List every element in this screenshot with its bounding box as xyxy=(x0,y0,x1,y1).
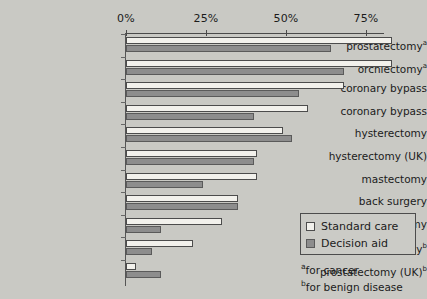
bar-decision-aid-3 xyxy=(126,113,254,120)
bar-standard-care-0 xyxy=(126,37,392,44)
bar-standard-care-5 xyxy=(126,150,257,157)
x-tick-label-50: 50% xyxy=(273,12,298,25)
bar-standard-care-6 xyxy=(126,173,257,180)
legend-swatch-standard-icon xyxy=(306,222,315,231)
bar-standard-care-2 xyxy=(126,82,344,89)
chart-footnotes: afor cancerbfor benign disease xyxy=(301,260,403,293)
bar-decision-aid-9 xyxy=(126,248,152,255)
x-tick-label-75: 75% xyxy=(353,12,378,25)
bar-standard-care-1 xyxy=(126,60,392,67)
bar-decision-aid-7 xyxy=(126,203,238,210)
bar-chart: 0%25%50%75% prostatectomyaorchiectomyaco… xyxy=(0,0,427,299)
x-axis-line xyxy=(125,33,384,34)
y-tick-0 xyxy=(121,34,126,35)
bar-standard-care-9 xyxy=(126,240,193,247)
legend-item-aid[interactable]: Decision aid xyxy=(306,235,410,252)
bar-standard-care-4 xyxy=(126,127,283,134)
bar-standard-care-8 xyxy=(126,218,222,225)
footnote-text-a: for cancer xyxy=(306,264,359,276)
bar-decision-aid-10 xyxy=(126,271,161,278)
footnote-b: bfor benign disease xyxy=(301,277,403,294)
bar-standard-care-3 xyxy=(126,105,308,112)
chart-legend: Standard careDecision aid xyxy=(300,213,416,255)
bar-standard-care-7 xyxy=(126,195,238,202)
footnote-a: afor cancer xyxy=(301,260,403,277)
bar-standard-care-10 xyxy=(126,263,136,270)
bar-decision-aid-4 xyxy=(126,135,292,142)
legend-swatch-aid-icon xyxy=(306,239,315,248)
footnote-text-b: for benign disease xyxy=(306,280,403,292)
bar-decision-aid-1 xyxy=(126,68,344,75)
legend-label-standard: Standard care xyxy=(321,220,398,233)
x-tick-label-0: 0% xyxy=(117,12,135,25)
x-tick-label-25: 25% xyxy=(193,12,218,25)
legend-label-aid: Decision aid xyxy=(321,237,388,250)
bar-decision-aid-5 xyxy=(126,158,254,165)
legend-item-standard[interactable]: Standard care xyxy=(306,218,410,235)
bar-decision-aid-2 xyxy=(126,90,299,97)
bar-decision-aid-6 xyxy=(126,181,203,188)
bar-decision-aid-8 xyxy=(126,226,161,233)
bar-decision-aid-0 xyxy=(126,45,331,52)
